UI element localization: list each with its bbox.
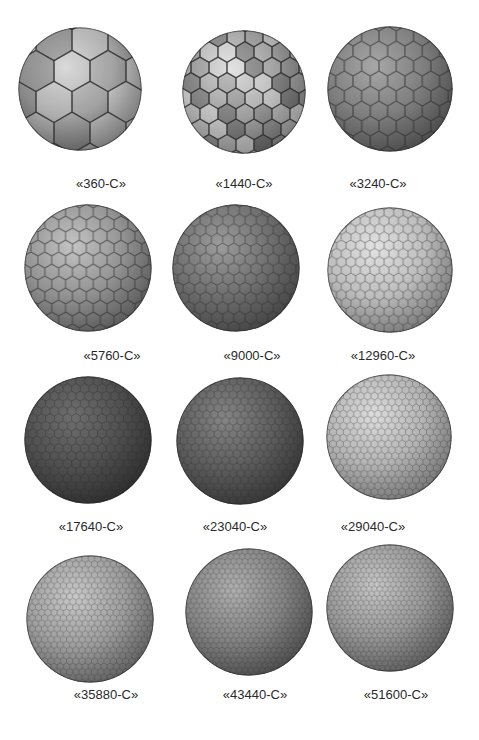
sphere-label: «3240-C» — [349, 176, 406, 191]
sphere-label: «23040-C» — [203, 519, 267, 534]
sphere-label: «29040-C» — [341, 519, 405, 534]
sphere-model — [24, 204, 152, 332]
sphere-label: «9000-C» — [223, 348, 280, 363]
sphere-model — [172, 204, 300, 332]
sphere-model — [24, 376, 152, 504]
sphere-model — [326, 544, 454, 672]
sphere-model — [185, 548, 313, 676]
sphere-model — [176, 377, 304, 505]
sphere-label: «17640-C» — [59, 519, 123, 534]
sphere-label: «360-C» — [76, 176, 126, 191]
sphere-model — [327, 26, 453, 152]
sphere-label: «12960-C» — [351, 348, 415, 363]
sphere-model — [326, 374, 452, 500]
sphere-label: «5760-C» — [83, 348, 140, 363]
sphere-model — [327, 207, 453, 333]
sphere-label: «1440-C» — [215, 176, 272, 191]
sphere-label: «51600-C» — [364, 687, 428, 702]
sphere-model — [182, 30, 306, 154]
sphere-model — [26, 555, 154, 683]
sphere-model — [18, 27, 142, 151]
sphere-label: «43440-C» — [223, 687, 287, 702]
sphere-label: «35880-C» — [74, 687, 138, 702]
